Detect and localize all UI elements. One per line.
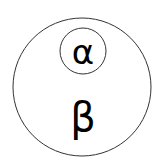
- beta-label: β: [70, 94, 96, 140]
- venn-diagram: α β: [0, 0, 162, 168]
- alpha-label: α: [72, 32, 94, 72]
